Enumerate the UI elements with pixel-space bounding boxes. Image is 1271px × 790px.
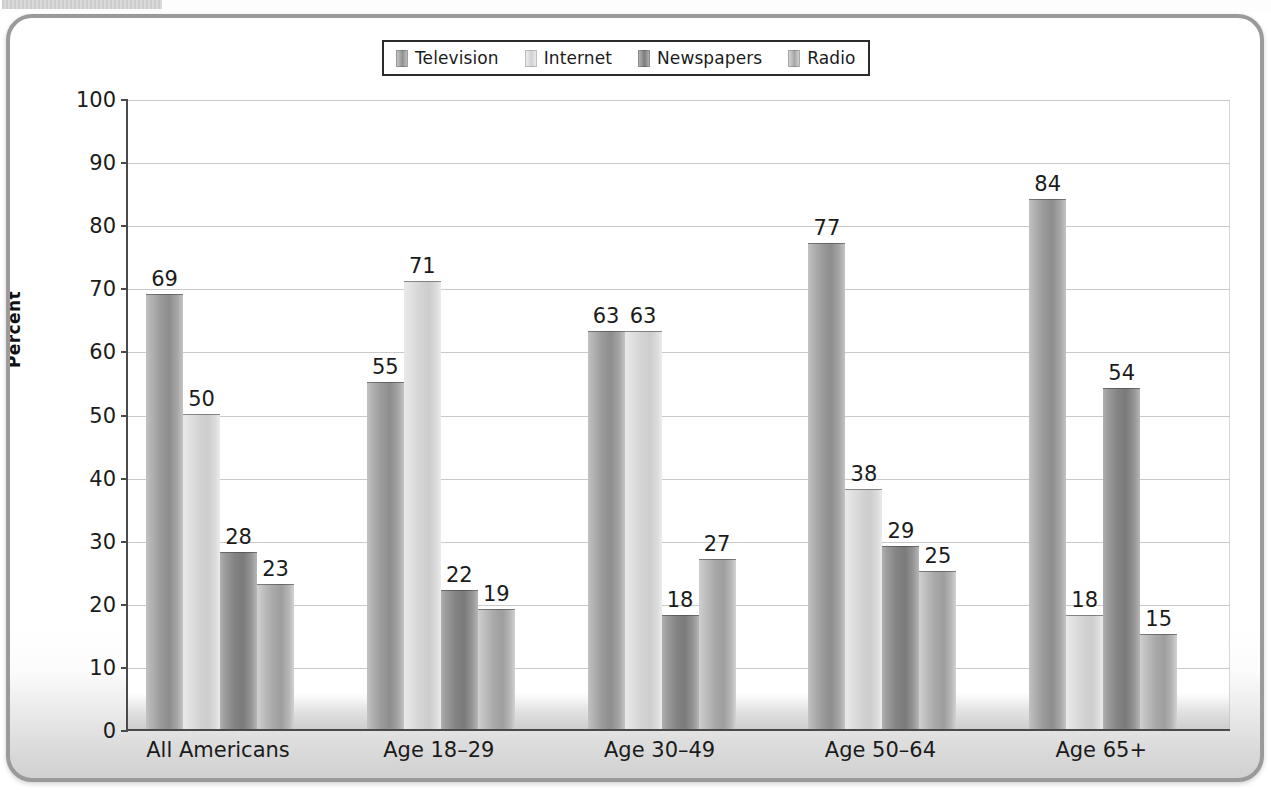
- y-tick-mark: [121, 604, 128, 606]
- y-axis-title: Percent: [6, 291, 24, 368]
- x-tick-label: Age 18–29: [383, 738, 494, 762]
- bar-value-label: 69: [151, 267, 178, 291]
- bar-slot: 84: [1029, 100, 1066, 729]
- scan-gray-bar: [2, 0, 162, 9]
- bar-slot: 15: [1140, 100, 1177, 729]
- bar-radio-age-18-29[interactable]: 19: [478, 609, 515, 729]
- bar-radio-age-30-49[interactable]: 27: [699, 559, 736, 729]
- bar-slot: 54: [1103, 100, 1140, 729]
- bar-value-label: 23: [262, 557, 289, 581]
- x-tick-label: Age 30–49: [604, 738, 715, 762]
- bar-internet-age-18-29[interactable]: 71: [404, 281, 441, 729]
- bar-value-label: 63: [593, 304, 620, 328]
- y-tick-label: 70: [89, 277, 116, 301]
- bar-value-label: 50: [188, 387, 215, 411]
- bar-slot: 18: [662, 100, 699, 729]
- bar-group: 63631827: [588, 100, 736, 729]
- bar-radio-age-50-64[interactable]: 25: [919, 571, 956, 729]
- y-tick-label: 10: [89, 656, 116, 680]
- y-tick-mark: [121, 99, 128, 101]
- y-tick-mark: [121, 667, 128, 669]
- legend-label: Newspapers: [657, 48, 762, 68]
- y-tick-mark: [121, 415, 128, 417]
- bar-value-label: 29: [888, 519, 915, 543]
- bar-value-label: 22: [446, 563, 473, 587]
- bar-value-label: 28: [225, 525, 252, 549]
- y-tick-mark: [121, 541, 128, 543]
- bar-value-label: 19: [483, 582, 510, 606]
- scan-artifact-strip: [0, 0, 1271, 12]
- plot-area: 6950282355712219636318277738292584185415: [126, 100, 1230, 731]
- legend-item-television[interactable]: Television: [396, 48, 499, 68]
- bar-value-label: 15: [1145, 607, 1172, 631]
- bar-slot: 38: [845, 100, 882, 729]
- x-tick-label: Age 65+: [1055, 738, 1147, 762]
- legend-swatch-icon-radio: [788, 50, 800, 67]
- bar-television-age-65[interactable]: 84: [1029, 199, 1066, 729]
- y-tick-label: 0: [103, 719, 116, 743]
- bar-value-label: 84: [1034, 172, 1061, 196]
- plot-right-rule: [1229, 100, 1230, 729]
- bar-group: 84185415: [1029, 100, 1177, 729]
- y-tick-label: 90: [89, 151, 116, 175]
- y-tick-label: 80: [89, 214, 116, 238]
- x-axis-tick-labels: All AmericansAge 18–29Age 30–49Age 50–64…: [126, 738, 1230, 772]
- legend-item-internet[interactable]: Internet: [525, 48, 612, 68]
- bar-slot: 29: [882, 100, 919, 729]
- bar-slot: 69: [146, 100, 183, 729]
- bar-slot: 77: [808, 100, 845, 729]
- legend-label: Radio: [807, 48, 855, 68]
- bar-slot: 28: [220, 100, 257, 729]
- bar-slot: 63: [625, 100, 662, 729]
- y-tick-label: 50: [89, 404, 116, 428]
- bar-internet-age-30-49[interactable]: 63: [625, 331, 662, 729]
- scan-text-fragment: [172, 0, 352, 4]
- bar-newspapers-age-65[interactable]: 54: [1103, 388, 1140, 729]
- bar-television-age-18-29[interactable]: 55: [367, 382, 404, 729]
- bar-newspapers-age-18-29[interactable]: 22: [441, 590, 478, 729]
- y-axis-tick-labels: 0102030405060708090100: [60, 100, 116, 731]
- bar-slot: 63: [588, 100, 625, 729]
- y-tick-label: 20: [89, 593, 116, 617]
- bar-group: 55712219: [367, 100, 515, 729]
- y-tick-mark: [121, 162, 128, 164]
- bar-slot: 25: [919, 100, 956, 729]
- legend-swatch-icon-television: [396, 50, 408, 67]
- bar-internet-age-50-64[interactable]: 38: [845, 489, 882, 729]
- bar-internet-age-65[interactable]: 18: [1066, 615, 1103, 729]
- bar-value-label: 27: [704, 532, 731, 556]
- bar-television-age-50-64[interactable]: 77: [808, 243, 845, 729]
- bar-value-label: 18: [1071, 588, 1098, 612]
- bar-radio-age-65[interactable]: 15: [1140, 634, 1177, 729]
- legend-item-newspapers[interactable]: Newspapers: [638, 48, 762, 68]
- bar-slot: 50: [183, 100, 220, 729]
- bar-newspapers-age-30-49[interactable]: 18: [662, 615, 699, 729]
- bar-slot: 27: [699, 100, 736, 729]
- bar-internet-all-americans[interactable]: 50: [183, 414, 220, 730]
- bar-newspapers-age-50-64[interactable]: 29: [882, 546, 919, 729]
- bar-value-label: 71: [409, 254, 436, 278]
- y-tick-mark: [121, 730, 128, 732]
- bar-television-age-30-49[interactable]: 63: [588, 331, 625, 729]
- x-tick-label: Age 50–64: [825, 738, 936, 762]
- bar-newspapers-all-americans[interactable]: 28: [220, 552, 257, 729]
- legend-item-radio[interactable]: Radio: [788, 48, 855, 68]
- y-tick-mark: [121, 288, 128, 290]
- bar-value-label: 63: [630, 304, 657, 328]
- bar-value-label: 38: [851, 462, 878, 486]
- x-tick-label: All Americans: [146, 738, 290, 762]
- legend-label: Internet: [544, 48, 612, 68]
- bar-radio-all-americans[interactable]: 23: [257, 584, 294, 729]
- bar-slot: 18: [1066, 100, 1103, 729]
- bar-group: 69502823: [146, 100, 294, 729]
- bar-value-label: 77: [814, 216, 841, 240]
- bar-slot: 23: [257, 100, 294, 729]
- bar-television-all-americans[interactable]: 69: [146, 294, 183, 729]
- bar-value-label: 18: [667, 588, 694, 612]
- y-tick-label: 100: [76, 88, 116, 112]
- y-tick-mark: [121, 351, 128, 353]
- y-tick-mark: [121, 478, 128, 480]
- bar-value-label: 55: [372, 355, 399, 379]
- y-tick-label: 30: [89, 530, 116, 554]
- y-tick-label: 40: [89, 467, 116, 491]
